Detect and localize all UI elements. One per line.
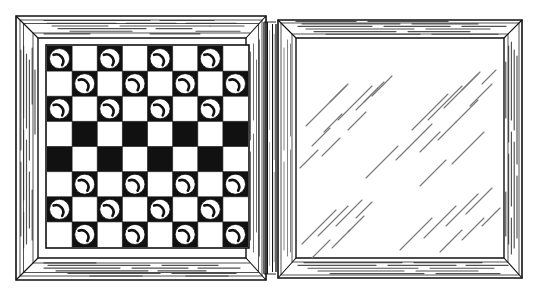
checker-disc: [200, 99, 220, 119]
checker-piece[interactable]: [50, 99, 70, 119]
checker-piece[interactable]: [100, 99, 120, 119]
checker-disc: [150, 199, 170, 219]
checker-disc: [100, 49, 120, 69]
checkerboard[interactable]: [46, 45, 249, 248]
checker-disc: [50, 99, 70, 119]
checker-piece[interactable]: [75, 74, 95, 94]
checker-disc: [225, 174, 245, 194]
checker-disc: [100, 199, 120, 219]
square-dark: [148, 147, 173, 172]
checker-disc: [75, 174, 95, 194]
checker-piece[interactable]: [100, 49, 120, 69]
checker-piece[interactable]: [175, 224, 195, 244]
checker-piece[interactable]: [125, 174, 145, 194]
checker-disc: [75, 224, 95, 244]
right-panel-inner-opening: [296, 38, 504, 258]
checker-disc: [100, 99, 120, 119]
checker-piece[interactable]: [225, 74, 245, 94]
left-panel[interactable]: [16, 16, 266, 280]
checker-piece[interactable]: [150, 49, 170, 69]
checker-disc: [200, 49, 220, 69]
checker-piece[interactable]: [150, 99, 170, 119]
right-panel[interactable]: [278, 20, 522, 278]
square-dark: [173, 121, 198, 146]
checker-disc: [225, 224, 245, 244]
checker-piece[interactable]: [200, 49, 220, 69]
illustration-canvas: [0, 0, 538, 296]
square-dark: [122, 121, 147, 146]
checker-piece[interactable]: [125, 224, 145, 244]
checker-piece[interactable]: [75, 224, 95, 244]
checker-disc: [125, 74, 145, 94]
checker-piece[interactable]: [50, 49, 70, 69]
square-dark: [72, 121, 97, 146]
checker-disc: [75, 74, 95, 94]
checker-disc: [50, 49, 70, 69]
checker-piece[interactable]: [225, 174, 245, 194]
checker-disc: [125, 224, 145, 244]
checker-disc: [150, 99, 170, 119]
checker-piece[interactable]: [50, 199, 70, 219]
square-dark: [47, 147, 72, 172]
checker-disc: [225, 74, 245, 94]
checker-piece[interactable]: [225, 224, 245, 244]
checker-piece[interactable]: [175, 74, 195, 94]
checker-piece[interactable]: [200, 99, 220, 119]
checker-disc: [175, 74, 195, 94]
checker-piece[interactable]: [75, 174, 95, 194]
checker-piece[interactable]: [150, 199, 170, 219]
checker-disc: [175, 174, 195, 194]
square-dark: [198, 147, 223, 172]
checker-disc: [175, 224, 195, 244]
checker-disc: [200, 199, 220, 219]
checker-piece[interactable]: [125, 74, 145, 94]
checker-piece[interactable]: [200, 199, 220, 219]
checker-disc: [150, 49, 170, 69]
square-dark: [97, 147, 122, 172]
checker-disc: [50, 199, 70, 219]
checker-piece[interactable]: [175, 174, 195, 194]
checker-piece[interactable]: [100, 199, 120, 219]
checkerboard-illustration: [0, 0, 538, 296]
checker-disc: [125, 174, 145, 194]
square-dark: [223, 121, 248, 146]
